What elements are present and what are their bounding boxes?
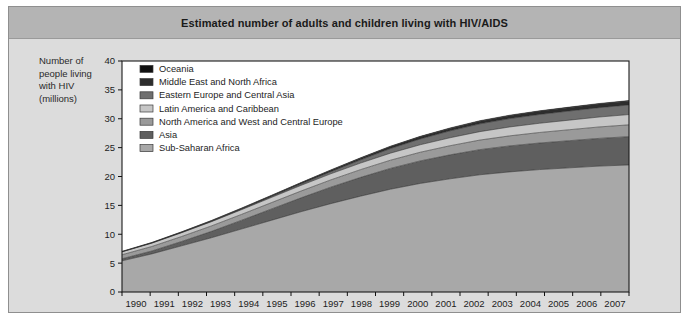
figure-container: Estimated number of adults and children … — [8, 6, 681, 313]
legend-label: North America and West and Central Europ… — [159, 117, 343, 127]
y-tick-label: 40 — [104, 55, 115, 66]
figure-title: Estimated number of adults and children … — [181, 17, 508, 29]
legend-label: Latin America and Caribbean — [159, 104, 279, 114]
legend-swatch — [140, 145, 153, 152]
x-tick-label: 1990 — [126, 298, 147, 309]
stacked-area-chart: 0510152025303540199019911992199319941995… — [9, 40, 682, 314]
legend-swatch — [140, 105, 153, 112]
x-tick-label: 1999 — [379, 298, 400, 309]
x-tick-label: 1992 — [182, 298, 203, 309]
y-tick-label: 25 — [104, 142, 115, 153]
legend-label: Asia — [159, 130, 178, 140]
legend-swatch — [140, 92, 153, 99]
x-tick-label: 2003 — [492, 298, 513, 309]
x-tick-label: 2006 — [576, 298, 597, 309]
y-tick-label: 5 — [110, 258, 115, 269]
legend-label: Oceania — [159, 64, 194, 74]
x-tick-label: 2000 — [407, 298, 428, 309]
legend-swatch — [140, 131, 153, 138]
legend-swatch — [140, 65, 153, 72]
y-tick-label: 20 — [104, 171, 115, 182]
legend-swatch — [140, 118, 153, 125]
x-tick-label: 1994 — [238, 298, 259, 309]
x-tick-label: 2001 — [435, 298, 456, 309]
x-tick-label: 1995 — [266, 298, 287, 309]
page-bottom-strip — [0, 314, 689, 336]
x-tick-label: 2002 — [464, 298, 485, 309]
legend-label: Sub-Saharan Africa — [159, 143, 240, 153]
plot-area: 0510152025303540199019911992199319941995… — [9, 40, 682, 314]
y-tick-label: 10 — [104, 229, 115, 240]
legend-label: Middle East and North Africa — [159, 77, 278, 87]
x-tick-label: 1997 — [323, 298, 344, 309]
legend-swatch — [140, 79, 153, 86]
x-tick-label: 1998 — [351, 298, 372, 309]
figure-body: Number of people living with HIV (millio… — [9, 40, 680, 312]
x-tick-label: 1993 — [210, 298, 231, 309]
y-tick-label: 35 — [104, 84, 115, 95]
y-axis: 0510152025303540 — [104, 55, 122, 297]
x-tick-label: 1991 — [154, 298, 175, 309]
y-tick-label: 15 — [104, 200, 115, 211]
figure-title-band: Estimated number of adults and children … — [9, 7, 680, 39]
x-tick-label: 1996 — [295, 298, 316, 309]
x-tick-label: 2007 — [604, 298, 625, 309]
x-tick-label: 2005 — [548, 298, 569, 309]
legend-label: Eastern Europe and Central Asia — [159, 90, 295, 100]
y-tick-label: 0 — [110, 286, 115, 297]
y-tick-label: 30 — [104, 113, 115, 124]
x-axis: 1990199119921993199419951996199719981999… — [122, 292, 629, 314]
x-tick-label: 2004 — [520, 298, 541, 309]
